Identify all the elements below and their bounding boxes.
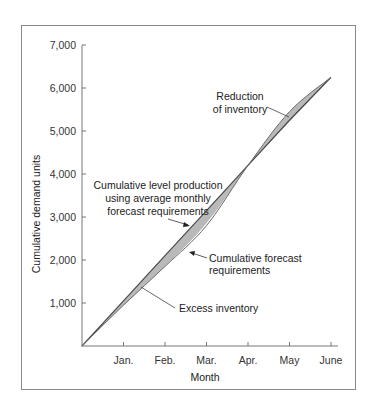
svg-text:Excess inventory: Excess inventory [179, 302, 259, 314]
x-tick-label: June [320, 354, 343, 366]
x-axis-title: Month [190, 371, 219, 383]
x-tick-label: Apr. [239, 354, 258, 366]
svg-text:Cumulative forecast: Cumulative forecast [209, 252, 302, 264]
x-tick-label: Feb. [154, 354, 175, 366]
y-axis-title: Cumulative demand units [30, 155, 42, 273]
annotation-forecast: Cumulative forecast requirements [189, 251, 302, 276]
y-tick-label: 2,000 [50, 254, 76, 266]
arrowhead-icon [183, 222, 190, 227]
y-tick-label: 1,000 [50, 297, 76, 309]
y-tick-label: 7,000 [50, 39, 76, 51]
y-tick-label: 5,000 [50, 125, 76, 137]
x-tick-label: Mar. [196, 354, 216, 366]
svg-text:Cumulative level production: Cumulative level production [94, 179, 223, 191]
x-tick-label: Jan. [114, 354, 134, 366]
svg-text:forecast requirements: forecast requirements [107, 205, 209, 217]
leader-line-excess [141, 287, 175, 308]
annotation-reduction-inventory: Reduction of inventory [213, 90, 289, 117]
y-tick-label: 3,000 [50, 211, 76, 223]
y-tick-label: 6,000 [50, 82, 76, 94]
chart-canvas: 1,0002,0003,0004,0005,0006,0007,000 Jan.… [0, 0, 376, 411]
y-tick-label: 4,000 [50, 168, 76, 180]
arrowhead-icon [189, 251, 195, 256]
x-tick-label: May [280, 354, 301, 366]
leader-line-reduction [267, 107, 289, 117]
svg-text:of inventory: of inventory [213, 103, 268, 115]
svg-text:using average monthly: using average monthly [105, 192, 211, 204]
y-axis-ticks: 1,0002,0003,0004,0005,0006,0007,000 [50, 39, 86, 309]
annotation-excess-inventory: Excess inventory [141, 287, 259, 314]
svg-text:requirements: requirements [209, 264, 270, 276]
svg-text:Reduction: Reduction [216, 90, 263, 102]
